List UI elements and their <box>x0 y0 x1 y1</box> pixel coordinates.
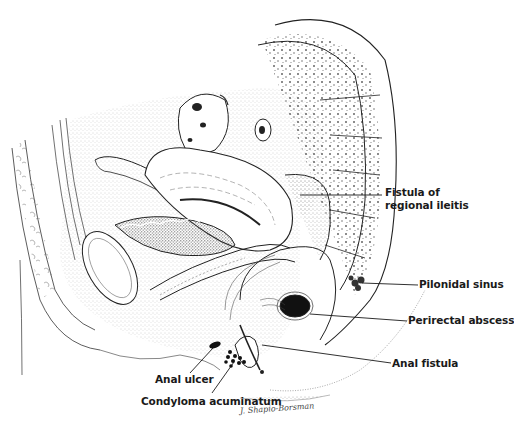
label-pilonidal-sinus: Pilonidal sinus <box>419 278 504 291</box>
label-anal-fistula: Anal fistula <box>392 357 458 370</box>
label-fistula-line2: regional ileitis <box>385 199 469 212</box>
label-fistula-of-regional-ileitis: Fistula of regional ileitis <box>385 186 469 212</box>
leader-pilonidal-sinus <box>362 283 418 285</box>
label-fistula-line1: Fistula of <box>385 186 469 199</box>
label-anal-ulcer: Anal ulcer <box>155 373 214 386</box>
fallopian-tube-right <box>255 119 271 141</box>
leader-perirectal-abscess <box>310 314 407 321</box>
leader-anal-fistula <box>262 345 391 363</box>
label-perirectal-abscess: Perirectal abscess <box>408 314 514 327</box>
